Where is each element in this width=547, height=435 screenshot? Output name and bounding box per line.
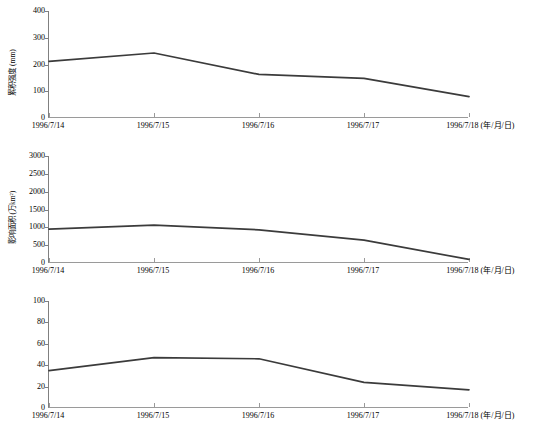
- x-axis-tick-mark: [469, 403, 470, 407]
- x-axis-tick-label: 1996/7/17: [347, 266, 379, 276]
- y-axis-title: 累积强度 (mm): [6, 0, 20, 145]
- x-axis-tick-label: 1996/7/15: [137, 411, 169, 421]
- plot-area: 0100200300400: [48, 11, 468, 118]
- x-axis-tick-mark: [469, 113, 470, 117]
- series-line: [49, 156, 469, 263]
- x-axis-tick-label: 1996/7/16: [242, 266, 274, 276]
- x-axis-tick-label: 1996/7/17: [347, 121, 379, 131]
- x-axis-tick-label: 1996/7/15: [137, 121, 169, 131]
- x-axis-tick-label: 1996/7/18 (年/月/日): [446, 411, 514, 421]
- x-axis-tick-label: 1996/7/14: [32, 266, 64, 276]
- chart-panel-cumulative-intensity: 累积强度 (mm) 050010001500200025003000 1996/…: [0, 145, 547, 290]
- chart-panel-instant-intensity: 瞬时强度 (mm) 0100200300400 1996/7/141996/7/…: [0, 0, 547, 145]
- x-axis-tick-label: 1996/7/16: [242, 121, 274, 131]
- chart-panel-affected-area: 影响面积 (万km²) 020406080100 1996/7/141996/7…: [0, 290, 547, 435]
- x-axis-tick-label: 1996/7/14: [32, 411, 64, 421]
- x-axis-tick-label: 1996/7/15: [137, 266, 169, 276]
- x-axis-tick-label: 1996/7/16: [242, 411, 274, 421]
- series-line: [49, 11, 469, 118]
- x-axis-tick-label: 1996/7/18 (年/月/日): [446, 266, 514, 276]
- plot-area: 050010001500200025003000: [48, 156, 468, 263]
- x-axis-tick-label: 1996/7/17: [347, 411, 379, 421]
- series-line: [49, 301, 469, 408]
- y-axis-title: 影响面积 (万km²): [6, 145, 20, 290]
- x-axis-tick-label: 1996/7/18 (年/月/日): [446, 121, 514, 131]
- x-axis-tick-label: 1996/7/14: [32, 121, 64, 131]
- figure-container: 瞬时强度 (mm) 0100200300400 1996/7/141996/7/…: [0, 0, 547, 435]
- plot-area: 020406080100: [48, 301, 468, 408]
